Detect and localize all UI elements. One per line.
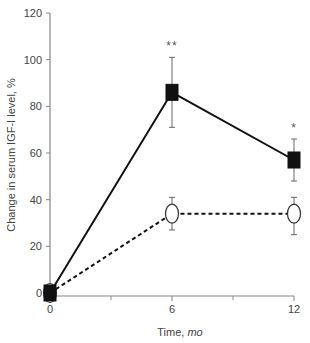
x-axis-label: Time, mo [157,326,202,338]
line-chart: 0204060801001200612 *** Change in serum … [0,0,310,343]
x-tick-label: 0 [47,303,53,315]
y-tick-label: 20 [30,240,42,252]
y-tick-label: 80 [30,100,42,112]
y-tick-label: 100 [24,54,42,66]
y-axis-label: Change in serum IGF-I level, % [5,78,17,232]
series-filled-squares: *** [44,39,300,301]
circle-marker [288,204,301,223]
data-series: *** [44,39,301,302]
y-tick-label: 60 [30,147,42,159]
significance-marker: ** [166,39,177,53]
y-tick-label: 40 [30,194,42,206]
x-tick-label: 12 [288,303,300,315]
circle-marker [166,204,179,223]
square-marker [288,152,300,168]
square-marker [166,84,178,100]
y-tick-label: 0 [36,287,42,299]
square-marker [44,285,56,301]
significance-marker: * [291,121,297,135]
y-tick-label: 120 [24,7,42,19]
x-tick-label: 6 [169,303,175,315]
series-open-circles [44,197,301,302]
